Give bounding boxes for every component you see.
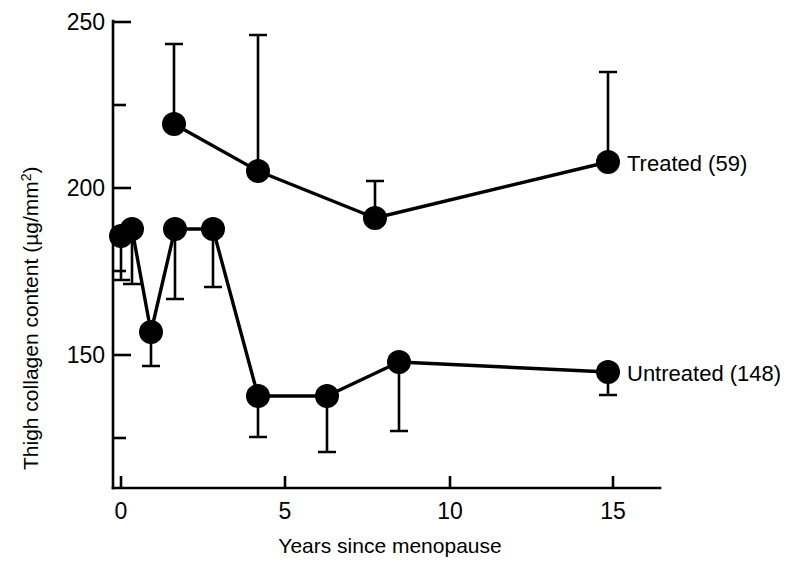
untreated-point-1 bbox=[120, 217, 144, 241]
treated-errorbar-3 bbox=[599, 72, 617, 162]
untreated-point-3 bbox=[163, 217, 187, 241]
treated-point-3 bbox=[596, 150, 620, 174]
y-tick-label-250: 250 bbox=[67, 9, 105, 35]
untreated-series-label: Untreated (148) bbox=[627, 361, 781, 386]
treated-line bbox=[174, 124, 608, 218]
y-axis-title-main: Thigh collagen content (µg/mm bbox=[19, 181, 42, 470]
x-tick-label-0: 0 bbox=[115, 498, 128, 524]
y-axis-title-close: ) bbox=[19, 166, 42, 173]
treated-markers bbox=[162, 112, 620, 230]
untreated-point-6 bbox=[315, 384, 339, 408]
x-tick-label-15: 15 bbox=[600, 498, 626, 524]
treated-point-2 bbox=[363, 206, 387, 230]
treated-point-1 bbox=[246, 159, 270, 183]
untreated-error-bars bbox=[112, 229, 617, 452]
treated-errorbar-1 bbox=[249, 35, 267, 171]
untreated-point-4 bbox=[201, 217, 225, 241]
y-axis-title-superscript: 2 bbox=[18, 173, 34, 181]
untreated-line bbox=[121, 229, 608, 396]
y-axis-title: Thigh collagen content (µg/mm2) bbox=[18, 166, 42, 470]
x-tick-label-10: 10 bbox=[437, 498, 463, 524]
x-axis-title: Years since menopause bbox=[278, 534, 501, 557]
x-axis-ticks bbox=[121, 476, 613, 488]
y-tick-label-200: 200 bbox=[67, 175, 105, 201]
treated-error-bars bbox=[165, 35, 617, 218]
series-untreated: Untreated (148) bbox=[109, 217, 781, 452]
collagen-line-chart: 250 200 150 0 5 10 15 Years since menopa… bbox=[0, 0, 798, 566]
y-tick-label-150: 150 bbox=[67, 342, 105, 368]
series-treated: Treated (59) bbox=[162, 35, 747, 230]
untreated-point-8 bbox=[596, 360, 620, 384]
untreated-point-2 bbox=[139, 320, 163, 344]
treated-series-label: Treated (59) bbox=[627, 151, 747, 176]
untreated-point-5 bbox=[246, 384, 270, 408]
untreated-point-7 bbox=[387, 350, 411, 374]
y-axis-title-group: Thigh collagen content (µg/mm2) bbox=[18, 166, 42, 470]
x-tick-label-5: 5 bbox=[279, 498, 292, 524]
treated-point-0 bbox=[162, 112, 186, 136]
chart-figure: 250 200 150 0 5 10 15 Years since menopa… bbox=[0, 0, 798, 566]
